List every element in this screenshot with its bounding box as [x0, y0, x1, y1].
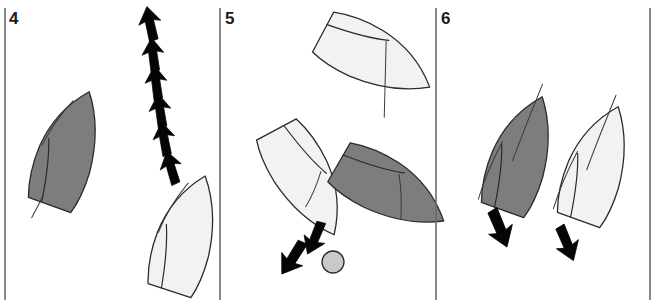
panel-6-number: 6 [441, 9, 450, 28]
sailing-diagram-canvas: 4 [0, 0, 657, 306]
panel-4-light-boat [141, 167, 232, 299]
track-arrow [136, 5, 164, 44]
figure-root: 4 [0, 0, 657, 306]
panel-6-arrow-light-boat [549, 221, 584, 264]
panel-5: 5 [220, 6, 458, 300]
track-arrow [141, 37, 166, 73]
panel-5-light-boat-upper [301, 6, 443, 130]
track-arrow [156, 149, 186, 188]
panel-6-light-boat [551, 88, 649, 229]
panel-4-dark-boat [16, 82, 116, 231]
panel-5-number: 5 [225, 9, 234, 28]
mark-buoy-icon [322, 251, 344, 273]
panel-4: 4 [5, 5, 232, 300]
panel-6: 6 [436, 8, 650, 300]
panel-5-dark-boat [326, 137, 458, 246]
panel-4-arrow-chain [136, 5, 186, 188]
panel-4-number: 4 [9, 9, 19, 28]
